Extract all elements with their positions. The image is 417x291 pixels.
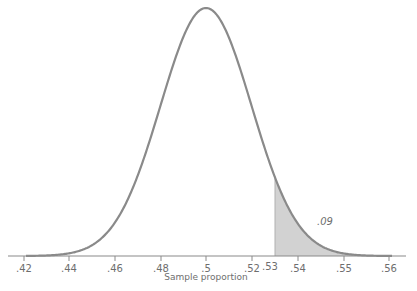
x-tick-label: .56 xyxy=(381,263,397,274)
tail-area-label: .09 xyxy=(317,216,333,227)
x-tick-label: .44 xyxy=(61,263,77,274)
x-tick-label: .54 xyxy=(290,263,306,274)
x-tick-label: .42 xyxy=(16,263,32,274)
x-tick-label: .53 xyxy=(262,261,278,272)
x-tick-label: .55 xyxy=(336,263,352,274)
x-tick-label: .46 xyxy=(107,263,123,274)
x-axis-title: Sample proportion xyxy=(164,272,248,282)
normal-curve-chart: .42.44.46.48.5.52.53.54.55.56 .09 Sample… xyxy=(0,0,417,291)
normal-curve xyxy=(26,8,392,256)
